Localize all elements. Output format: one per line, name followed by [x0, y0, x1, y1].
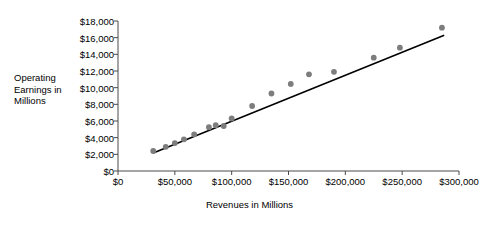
x-tick-label: $150,000: [269, 176, 309, 187]
trend-line-segment: [153, 35, 444, 153]
data-point: [150, 148, 156, 154]
x-axis-title: Revenues in Millions: [0, 199, 499, 210]
data-points: [150, 25, 445, 154]
data-point: [206, 124, 212, 130]
data-point: [397, 45, 403, 51]
data-point: [163, 144, 169, 150]
x-tick-label: $250,000: [382, 176, 422, 187]
data-point: [269, 91, 275, 97]
scatter-chart: Operating Earnings in Millions $0$2,000$…: [0, 0, 499, 229]
axes: [114, 21, 459, 175]
x-tick-label: $100,000: [212, 176, 252, 187]
data-point: [249, 103, 255, 109]
x-tick-label: $50,000: [158, 176, 192, 187]
trend-line: [153, 35, 444, 153]
x-tick-label: $0: [113, 176, 124, 187]
data-point: [306, 71, 312, 77]
data-point: [213, 122, 219, 128]
data-point: [288, 81, 294, 87]
plot-area: [0, 0, 499, 229]
data-point: [181, 136, 187, 142]
data-point: [229, 116, 235, 122]
data-point: [191, 131, 197, 137]
x-tick-label: $300,000: [439, 176, 479, 187]
x-tick-label: $200,000: [326, 176, 366, 187]
data-point: [331, 69, 337, 75]
data-point: [221, 123, 227, 129]
data-point: [172, 140, 178, 146]
data-point: [439, 25, 445, 31]
data-point: [371, 55, 377, 61]
